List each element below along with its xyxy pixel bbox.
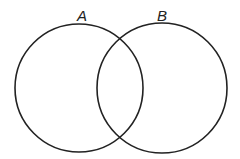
set-b-circle: [97, 23, 227, 153]
set-b-label: B: [157, 7, 167, 24]
set-a-label: A: [76, 7, 87, 24]
venn-diagram: A B: [0, 0, 240, 159]
set-a-circle: [15, 24, 143, 152]
